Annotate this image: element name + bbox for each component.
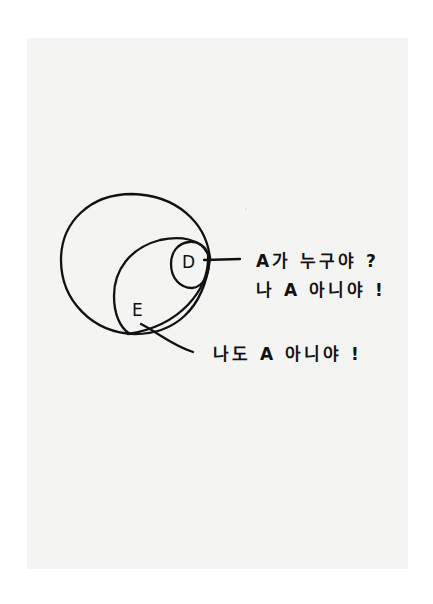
d-callout-line: [204, 259, 240, 260]
d-callout-line2: 나 A 아니야 !: [256, 276, 386, 301]
paper-speck: [245, 208, 247, 210]
d-callout-line1: A가 누구야 ?: [256, 247, 379, 272]
e-callout-line1: 나도 A 아니야 !: [213, 340, 362, 365]
set-e-label: E: [132, 300, 144, 320]
set-d-label: D: [182, 252, 196, 272]
venn-diagram: [0, 0, 433, 604]
